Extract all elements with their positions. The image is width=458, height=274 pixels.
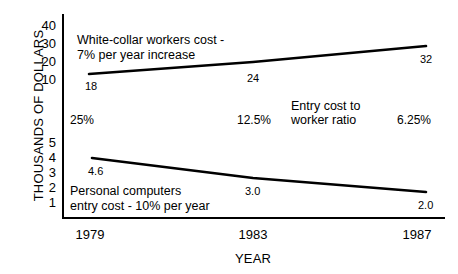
ratio-value-1983: 12.5% <box>237 114 271 126</box>
y-tick-upper-40: 40 <box>30 19 56 32</box>
annotation-white-collar-line2: 7% per year increase <box>77 48 195 63</box>
y-axis-line <box>62 14 64 218</box>
ratio-value-1987: 6.25% <box>397 114 431 126</box>
ratio-caption-line1: Entry cost to <box>291 99 360 113</box>
ratio-caption-line2: worker ratio <box>291 113 356 127</box>
y-tick-upper-20: 20 <box>30 55 56 68</box>
data-label-white-collar-1987: 32 <box>420 54 432 65</box>
annotation-pc-line1: Personal computers <box>70 184 181 199</box>
ratio-value-1979: 25% <box>70 114 94 126</box>
y-tick-lower-3: 3 <box>30 166 56 179</box>
x-tick-1979: 1979 <box>60 228 120 241</box>
x-axis-line <box>62 217 445 219</box>
y-tick-upper-10: 10 <box>30 73 56 86</box>
x-axis-title: YEAR <box>213 251 293 266</box>
annotation-pc-line2: entry cost - 10% per year <box>70 199 210 214</box>
y-tick-lower-1: 1 <box>30 196 56 209</box>
data-label-pc-1983: 3.0 <box>245 186 260 197</box>
y-tick-lower-2: 2 <box>30 181 56 194</box>
chart-figure: THOUSANDS OF DOLLARS YEAR 40 30 20 10 5 … <box>0 0 458 274</box>
x-tick-1983: 1983 <box>223 228 283 241</box>
annotation-white-collar-line1: White-collar workers cost - <box>77 33 224 48</box>
data-label-pc-1987: 2.0 <box>418 200 433 211</box>
data-label-pc-1979: 4.6 <box>88 166 103 177</box>
y-tick-upper-30: 30 <box>30 37 56 50</box>
data-label-white-collar-1983: 24 <box>247 73 259 84</box>
x-tick-1987: 1987 <box>387 228 447 241</box>
y-tick-lower-5: 5 <box>30 136 56 149</box>
data-label-white-collar-1979: 18 <box>85 81 97 92</box>
y-tick-lower-4: 4 <box>30 151 56 164</box>
